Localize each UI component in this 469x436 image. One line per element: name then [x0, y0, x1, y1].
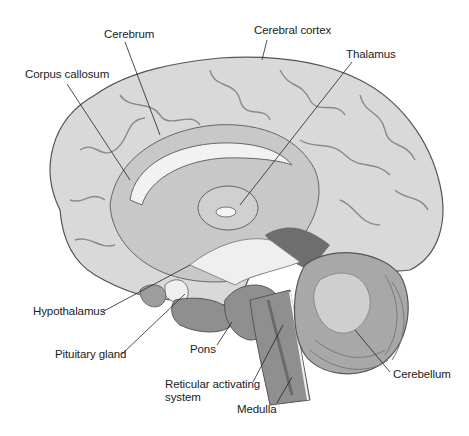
label-cerebral-cortex: Cerebral cortex	[254, 24, 331, 37]
label-cerebrum: Cerebrum	[104, 28, 154, 41]
label-cerebellum: Cerebellum	[393, 368, 451, 381]
label-reticular-line1: Reticular activating	[165, 378, 260, 391]
label-medulla: Medulla	[237, 403, 277, 416]
brain-diagram: Cerebrum Cerebral cortex Corpus callosum…	[0, 0, 469, 436]
label-corpus-callosum: Corpus callosum	[25, 68, 109, 81]
label-hypothalamus: Hypothalamus	[33, 305, 105, 318]
label-pituitary-gland: Pituitary gland	[55, 348, 126, 361]
label-thalamus: Thalamus	[346, 48, 396, 61]
label-pons: Pons	[190, 343, 216, 356]
label-reticular-activating-system: Reticular activating system	[165, 378, 260, 404]
